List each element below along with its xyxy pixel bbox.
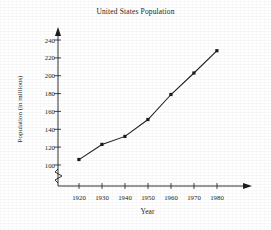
data-point-1940: [123, 135, 126, 138]
data-point-1980: [215, 49, 218, 52]
y-axis-break-icon: [55, 169, 62, 183]
data-point-markers: [77, 49, 218, 161]
y-tick-marks: [54, 40, 61, 165]
data-point-1960: [169, 93, 172, 96]
y-axis-arrowhead: [55, 27, 61, 36]
data-point-1930: [100, 143, 103, 146]
x-axis-arrowhead: [243, 183, 252, 189]
data-point-1970: [192, 71, 195, 74]
chart-figure: United States Population Population (in …: [0, 0, 271, 230]
y-axis: [55, 27, 61, 186]
plot-area: [0, 0, 271, 230]
data-point-1950: [146, 118, 149, 121]
x-axis: [58, 183, 252, 189]
data-point-1920: [77, 158, 80, 161]
data-series-line: [79, 51, 217, 160]
